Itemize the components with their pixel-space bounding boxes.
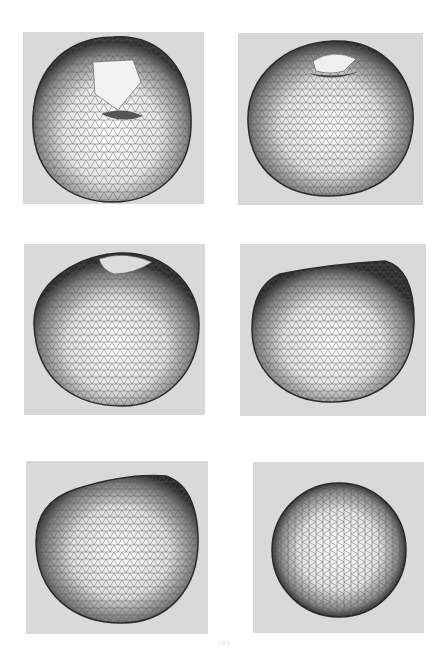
mesh-panel-apple-tilted-view [238, 33, 423, 205]
apple-mesh-side-icon [240, 244, 426, 416]
page-number: 103 [0, 640, 448, 646]
mesh-panel-apple-top-view [23, 32, 204, 204]
apple-mesh-top-icon [23, 32, 204, 204]
mesh-panel-apple-side-view [240, 244, 426, 416]
sphere-mesh-icon [253, 462, 424, 633]
mesh-panel-sphere-view [253, 462, 424, 633]
apple-mesh-bottom-oblique-icon [26, 461, 208, 634]
apple-mesh-oblique-icon [24, 244, 205, 415]
mesh-panel-apple-oblique-view [24, 244, 205, 415]
mesh-panel-apple-bottom-oblique-view [26, 461, 208, 634]
apple-mesh-tilted-icon [238, 33, 423, 205]
